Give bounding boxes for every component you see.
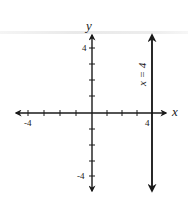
coordinate-plane: y x -4 4 4 -4 x = 4 (0, 0, 188, 207)
x-tick-label-right: 4 (145, 118, 150, 128)
x-axis-label: x (171, 104, 178, 119)
y-tick-label-bottom: -4 (77, 171, 85, 181)
x-tick-label-left: -4 (24, 118, 32, 128)
y-tick-label-top: 4 (82, 43, 87, 53)
line-annotation: x = 4 (136, 62, 148, 87)
y-axis-label: y (84, 18, 92, 33)
